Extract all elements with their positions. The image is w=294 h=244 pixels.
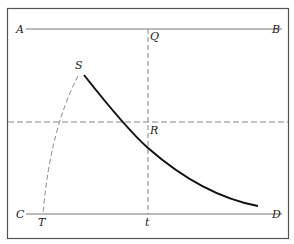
main-curve [84,75,258,206]
label-t-lower: t [145,216,150,229]
diagram-canvas: A B C D Q R S T t [0,0,294,244]
label-s: S [75,59,83,72]
label-q: Q [150,30,159,43]
label-a: A [15,23,24,36]
label-r: R [149,124,158,137]
label-b: B [271,23,280,36]
label-c: C [16,208,25,221]
dashed-curve-st [43,76,78,214]
label-d: D [271,208,281,221]
label-t-upper: T [38,216,47,229]
